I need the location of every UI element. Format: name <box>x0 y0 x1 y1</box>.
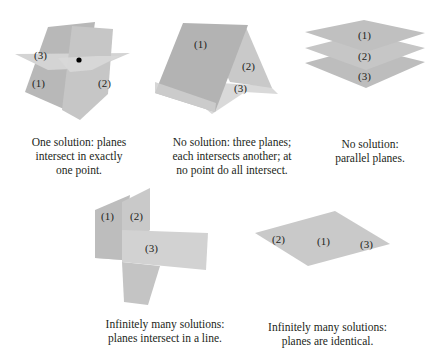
caption-one-solution: One solution: planes intersect in exactl… <box>0 135 158 177</box>
plane-label-3: (3) <box>34 49 47 62</box>
plane-label-1: (1) <box>194 38 207 51</box>
plane-label-3: (3) <box>145 242 158 255</box>
three-planes-point-diagram: (3) (1) (2) <box>0 0 150 125</box>
plane-label-3: (3) <box>358 70 371 83</box>
tent-planes-diagram: (1) (2) (3) <box>150 0 290 125</box>
plane-label-2: (2) <box>358 50 371 63</box>
plane-label-1: (1) <box>317 235 330 248</box>
plane-label-2: (2) <box>98 77 111 90</box>
figure-infinite-identical: (2) (1) (3) <box>250 210 400 280</box>
plane-label-2: (2) <box>272 233 285 246</box>
identical-planes-diagram: (2) (1) (3) <box>250 210 400 280</box>
parallel-planes-diagram: (1) (2) (3) <box>300 20 446 100</box>
caption-no-solution-three-planes: No solution: three planes; each intersec… <box>148 135 316 177</box>
caption-no-solution-parallel: No solution: parallel planes. <box>316 137 424 165</box>
figure-no-solution-three-planes: (1) (2) (3) <box>150 0 290 125</box>
plane-label-1: (1) <box>101 210 114 223</box>
plane-label-3: (3) <box>360 238 373 251</box>
figure-one-solution: (3) (1) (2) <box>0 0 150 125</box>
caption-infinite-line: Infinitely many solutions: planes inters… <box>90 317 240 345</box>
figure-infinite-line: (1) (2) (3) <box>90 180 220 310</box>
plane-label-1: (1) <box>358 29 371 42</box>
plane-label-2: (2) <box>242 60 255 73</box>
planes-line-diagram: (1) (2) (3) <box>90 180 220 310</box>
plane-label-3: (3) <box>234 82 247 95</box>
plane-label-1: (1) <box>32 77 45 90</box>
plane-label-2: (2) <box>130 210 143 223</box>
caption-infinite-identical: Infinitely many solutions: planes are id… <box>255 320 400 348</box>
intersection-point <box>76 57 81 62</box>
figure-no-solution-parallel: (1) (2) (3) <box>300 20 446 100</box>
